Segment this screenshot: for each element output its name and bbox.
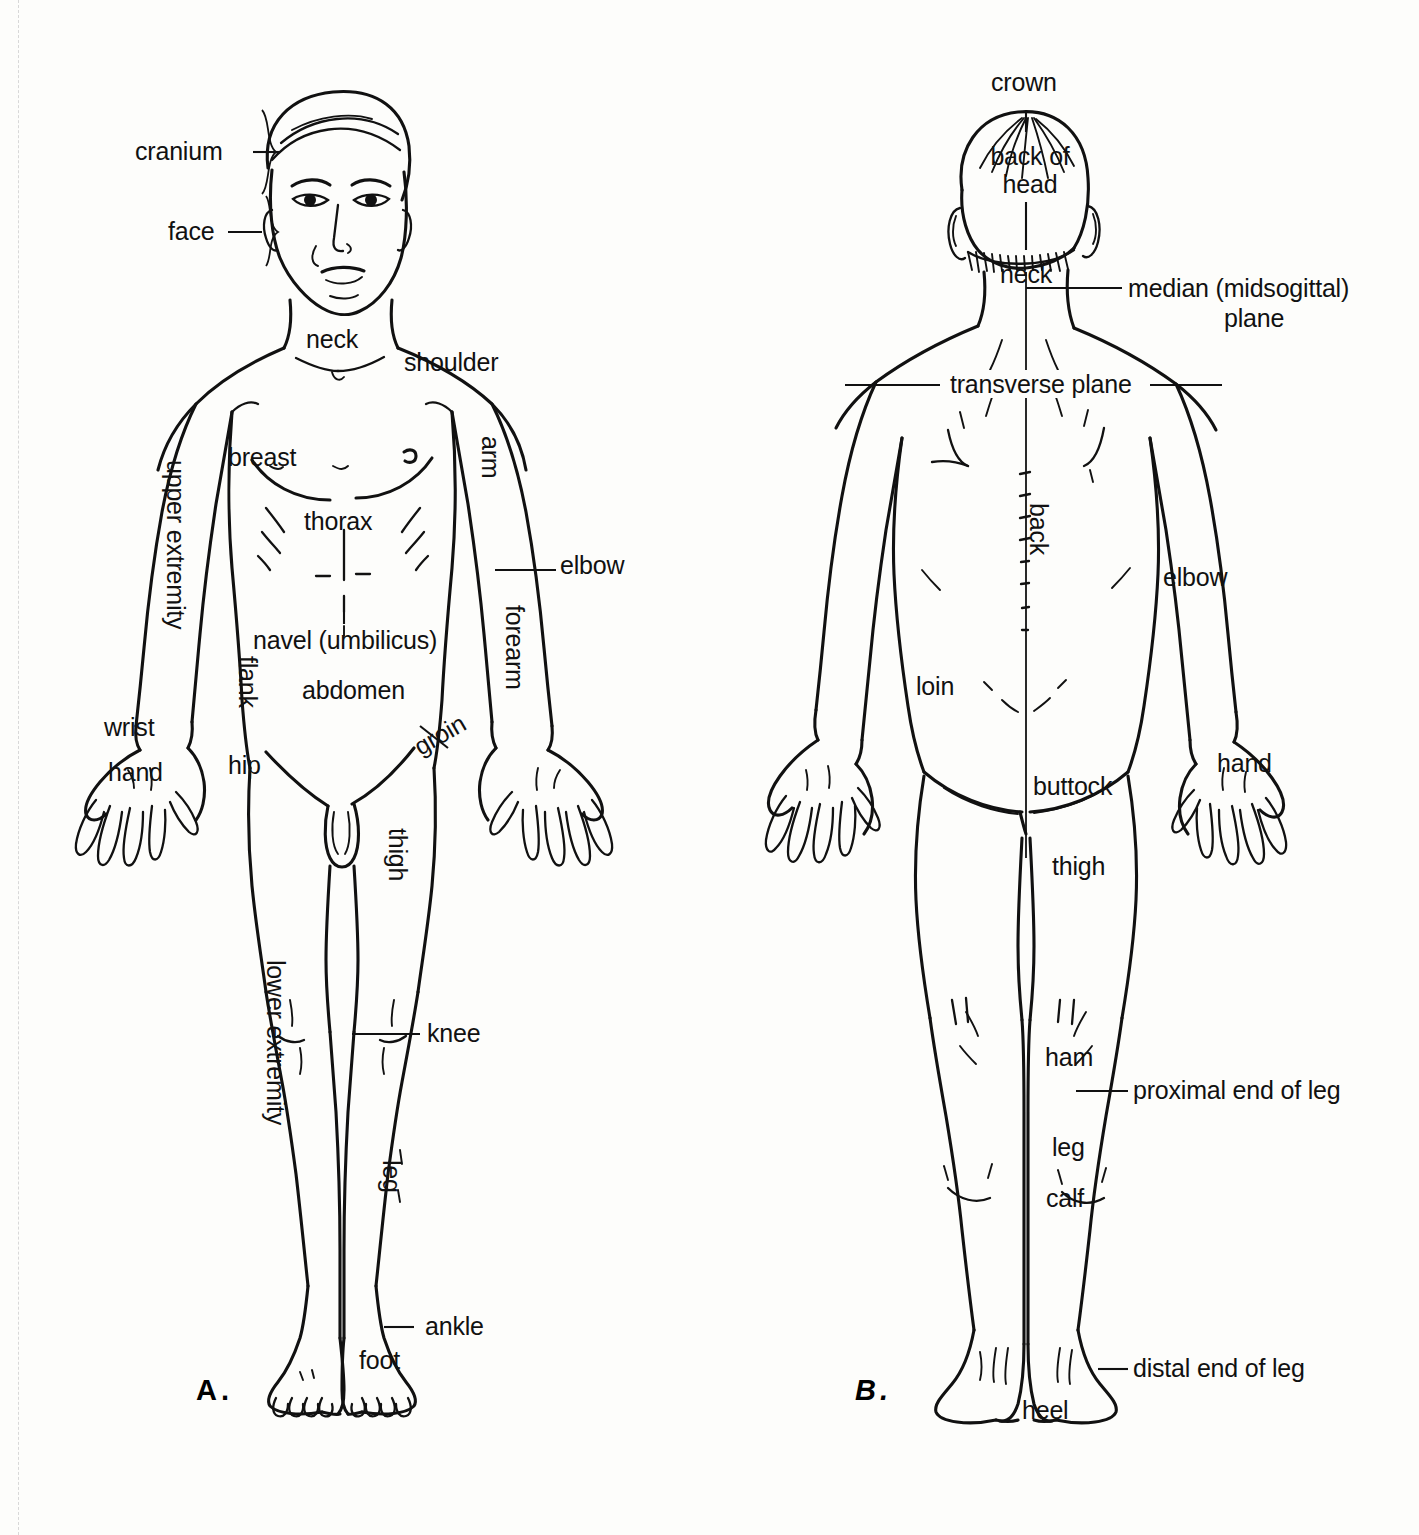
label-back: back	[1025, 503, 1053, 555]
label-distal-end-of-leg: distal end of leg	[1133, 1354, 1305, 1382]
label-transverse-plane: transverse plane	[944, 370, 1138, 398]
label-back-of-head-line1: back of	[985, 142, 1075, 170]
label-ham: ham	[1045, 1043, 1093, 1071]
label-crown: crown	[991, 68, 1057, 96]
label-calf: calf	[1046, 1184, 1084, 1212]
label-neck-posterior: neck	[1000, 260, 1052, 288]
label-elbow-posterior: elbow	[1163, 563, 1227, 591]
label-heel: heel	[1022, 1396, 1068, 1424]
figure-caption-b: B.	[855, 1374, 892, 1407]
label-buttock: buttock	[1033, 772, 1112, 800]
label-loin: loin	[916, 672, 954, 700]
label-back-of-head-line2: head	[985, 170, 1075, 198]
label-median-plane-line1: median (midsogittal)	[1128, 274, 1349, 302]
label-proximal-end-of-leg: proximal end of leg	[1133, 1076, 1340, 1104]
figure-b-linework	[0, 0, 1419, 1535]
diagram-page: cranium face neck shoulder breast thorax…	[0, 0, 1419, 1535]
label-leg-posterior: leg	[1052, 1133, 1085, 1161]
label-median-plane-line2: plane	[1224, 304, 1284, 332]
label-hand-posterior: hand	[1217, 749, 1272, 777]
label-thigh-posterior: thigh	[1052, 852, 1105, 880]
